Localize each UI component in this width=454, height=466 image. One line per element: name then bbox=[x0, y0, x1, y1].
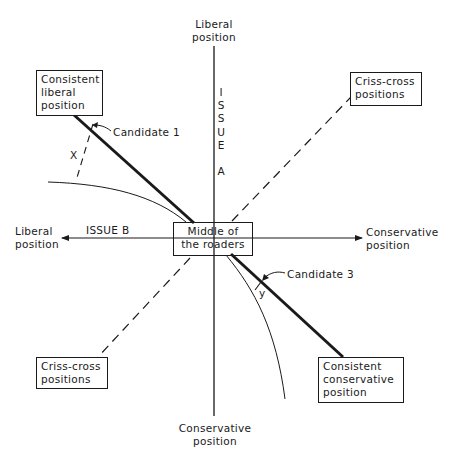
criss-cross-bottom-left-box: Criss-cross positions bbox=[36, 357, 108, 389]
issue-b-label: ISSUE B bbox=[86, 224, 129, 237]
consistent-conservative-box: Consistent conservative position bbox=[318, 357, 404, 403]
issue-a-top-label: Liberal position bbox=[184, 18, 244, 44]
candidate-3-label: Candidate 3 bbox=[287, 268, 354, 281]
issue-a-label: I S S U E A bbox=[215, 86, 227, 178]
consistent-liberal-box: Consistent liberal position bbox=[36, 70, 103, 116]
issue-b-left-label: Liberal position bbox=[15, 225, 59, 251]
distance-x-label: X bbox=[70, 149, 78, 162]
distance-x-dashed bbox=[76, 124, 93, 181]
criss-cross-line-top bbox=[232, 97, 351, 221]
criss-cross-line-bottom bbox=[98, 258, 190, 357]
middle-of-the-road-box: Middle of the roaders bbox=[173, 222, 253, 256]
issue-b-right-label: Conservative position bbox=[366, 226, 439, 252]
candidate-1-pointer-head bbox=[92, 122, 98, 128]
candidate-1-label: Candidate 1 bbox=[113, 126, 180, 139]
issue-space-diagram: Liberal position Conservative position I… bbox=[0, 0, 454, 466]
candidate-1-curve bbox=[48, 182, 186, 222]
issue-a-bottom-label: Conservative position bbox=[172, 422, 258, 448]
distance-y-label: y bbox=[259, 287, 266, 300]
criss-cross-top-right-box: Criss-cross positions bbox=[350, 72, 422, 106]
